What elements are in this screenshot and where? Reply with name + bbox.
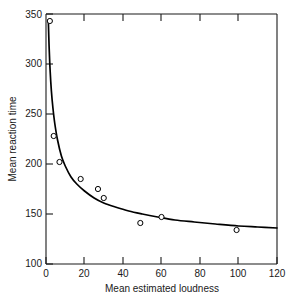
y-axis-title: Mean reaction time xyxy=(7,96,18,181)
y-tick-label-100: 100 xyxy=(25,258,42,269)
y-tick-label-300: 300 xyxy=(25,58,42,69)
y-tick-label-200: 200 xyxy=(25,158,42,169)
data-point xyxy=(57,159,62,164)
x-axis-title: Mean estimated loudness xyxy=(105,283,219,294)
y-tick-label-150: 150 xyxy=(25,208,42,219)
data-point xyxy=(51,133,56,138)
x-tick-label-120: 120 xyxy=(269,268,286,279)
y-tick-label-250: 250 xyxy=(25,108,42,119)
y-tick-label-350: 350 xyxy=(25,9,42,20)
data-point xyxy=(95,186,100,191)
figure-container: 100 150 200 250 300 350 0 xyxy=(0,0,300,303)
data-point xyxy=(101,195,106,200)
data-point xyxy=(47,18,52,23)
x-tick-label-80: 80 xyxy=(194,268,206,279)
plot-background xyxy=(0,0,300,303)
x-tick-label-40: 40 xyxy=(117,268,129,279)
scatter-plot: 100 150 200 250 300 350 0 xyxy=(0,0,300,303)
data-point xyxy=(78,176,83,181)
x-tick-label-20: 20 xyxy=(78,268,90,279)
data-point xyxy=(159,214,164,219)
x-tick-label-100: 100 xyxy=(230,268,247,279)
x-tick-label-60: 60 xyxy=(155,268,167,279)
data-point xyxy=(138,220,143,225)
x-tick-label-0: 0 xyxy=(43,268,49,279)
data-point xyxy=(234,227,239,232)
